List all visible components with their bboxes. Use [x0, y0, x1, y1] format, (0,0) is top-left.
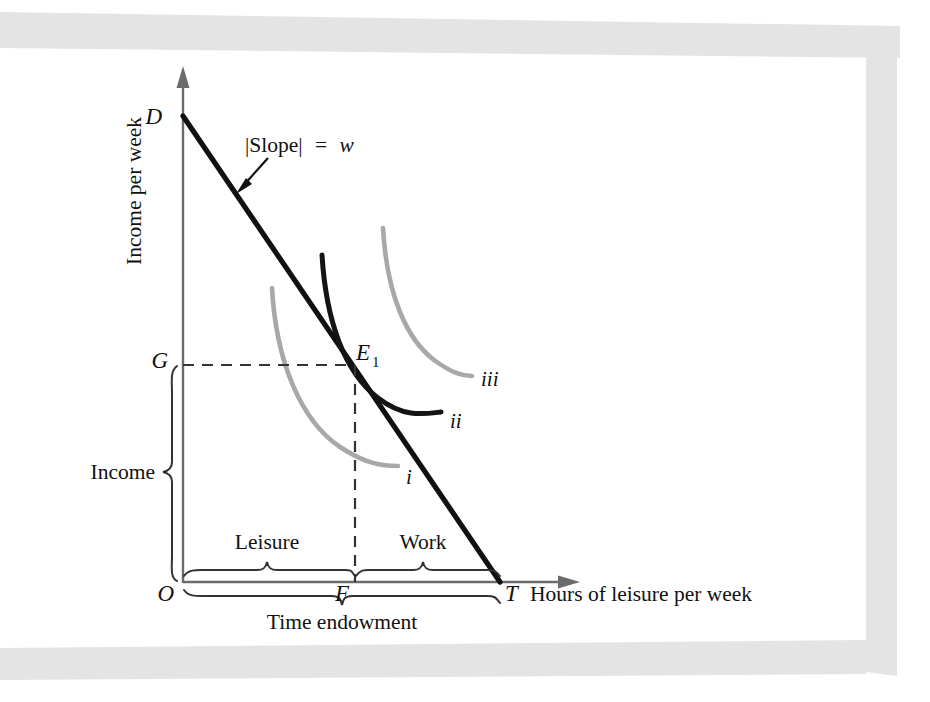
label-E1-subscript: 1: [372, 354, 380, 370]
figure-root: Income per week Hours of leisure per wee…: [0, 0, 930, 702]
brace-label-time-endowment: Time endowment: [267, 610, 417, 634]
frame-right-band: [866, 26, 897, 676]
labor-leisure-diagram: Income per week Hours of leisure per wee…: [0, 0, 930, 702]
brace-label-work: Work: [399, 530, 446, 554]
curve-label-ii: ii: [450, 409, 462, 433]
label-G: G: [151, 348, 168, 373]
slope-text-bars: |Slope|: [245, 133, 303, 157]
slope-text-equals: =: [315, 133, 327, 157]
label-F: F: [334, 581, 350, 606]
label-E1-base: E: [355, 340, 370, 365]
label-T: T: [505, 581, 520, 606]
brace-label-income: Income: [91, 460, 155, 484]
x-axis-label: Hours of leisure per week: [530, 582, 752, 606]
curve-label-i: i: [406, 465, 412, 489]
y-axis-label: Income per week: [122, 117, 146, 265]
slope-text-w: w: [339, 133, 354, 157]
brace-label-leisure: Leisure: [235, 530, 299, 554]
label-O: O: [157, 581, 174, 606]
curve-label-iii: iii: [481, 367, 499, 391]
label-D: D: [144, 104, 162, 129]
